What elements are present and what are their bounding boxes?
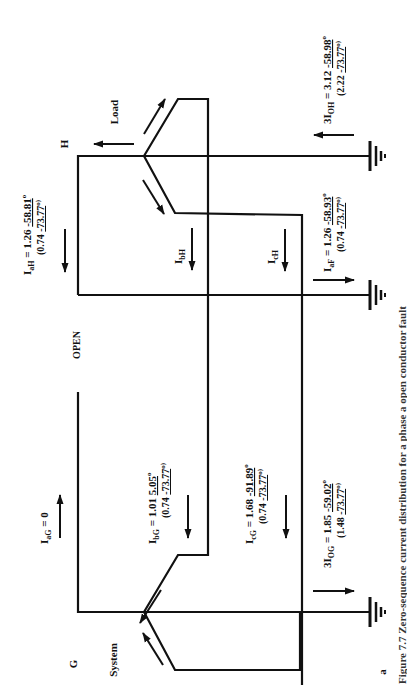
- svg-text:(0.74 -73.77o): (0.74 -73.77o): [159, 462, 172, 518]
- system-label: System: [107, 643, 119, 677]
- label-i-ch: IcH: [265, 249, 280, 264]
- bus-label-h: H: [58, 139, 70, 148]
- svg-text:(2.22 -73.77o): (2.22 -73.77o): [334, 40, 347, 96]
- label-i-cg: IcG = 1.68 -91.89o (0.74 -73.77o): [242, 464, 269, 544]
- label-i-af: IaF = 1.26 -58.93o (0.74 -73.77o): [320, 193, 347, 272]
- system-branch-lower: [144, 612, 300, 670]
- bus-label-g: G: [67, 659, 79, 668]
- circuit-wires: [78, 99, 370, 685]
- label-i-bg: IbG = 1.01 5.05o (0.74 -73.77o): [145, 462, 172, 544]
- figure-caption: Figure 7.7 Zero-sequence current distrib…: [396, 306, 407, 684]
- svg-text:IaG = 0: IaG = 0: [38, 512, 53, 544]
- svg-text:(0.74 -73.77o): (0.74 -73.77o): [334, 196, 347, 252]
- arrow-load-upper: [144, 99, 165, 134]
- svg-text:(0.74 -73.77o): (0.74 -73.77o): [256, 468, 269, 524]
- label-i-ag: IaG = 0: [38, 512, 53, 544]
- ground-symbol-g: [370, 597, 385, 627]
- open-label: OPEN: [71, 330, 82, 359]
- svg-text:3IOH = 3.12 -58.98o: 3IOH = 3.12 -58.98o: [320, 36, 336, 124]
- label-i-bh: IbH: [172, 248, 187, 264]
- load-label: Load: [108, 100, 120, 124]
- svg-text:IbG = 1.01 5.05o: IbG = 1.01 5.05o: [145, 472, 161, 544]
- label-i-ah: IaH = 1.26 -58.81o (0.74 -73.77o): [20, 194, 47, 275]
- open-conductor-diagram: H G Load System OPEN a IaH = 1.26 -58.81…: [0, 0, 407, 685]
- svg-text:Figure 7.7 Zero-sequence curr: Figure 7.7 Zero-sequence current distrib…: [396, 306, 407, 684]
- panel-label: a: [376, 669, 388, 675]
- label-3i-oh: 3IOH = 3.12 -58.98o (2.22 -73.77o): [320, 36, 347, 124]
- svg-text:IbH: IbH: [172, 248, 187, 264]
- load-branch-lower: [144, 156, 302, 685]
- label-3i-og: 3IOG = 1.85 -59.02o (1.48 -73.77o): [320, 480, 347, 568]
- svg-text:IaF = 1.26 -58.93o: IaF = 1.26 -58.93o: [320, 193, 336, 272]
- svg-text:(1.48 -73.77o): (1.48 -73.77o): [334, 482, 347, 538]
- svg-text:3IOG = 1.85 -59.02o: 3IOG = 1.85 -59.02o: [320, 480, 336, 568]
- ground-symbol-h: [370, 141, 385, 171]
- ground-symbol-f: [370, 280, 385, 310]
- svg-text:(0.74 -73.77o): (0.74 -73.77o): [34, 199, 47, 255]
- arrow-system-upper: [140, 590, 161, 623]
- svg-text:IcH: IcH: [265, 249, 280, 264]
- arrow-system-lower: [143, 633, 163, 665]
